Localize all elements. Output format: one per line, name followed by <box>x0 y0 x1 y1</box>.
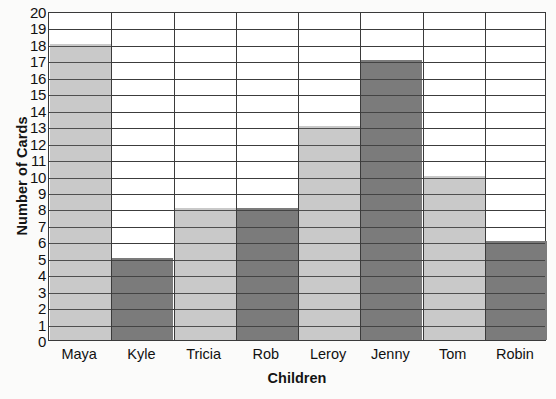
bar-robin <box>486 241 547 340</box>
x-tick-label: Rob <box>235 344 297 364</box>
bar-rob <box>237 208 298 340</box>
bar-chart: Number of Cards 201918171615141312111098… <box>0 0 556 399</box>
y-tick-label: 9 <box>22 185 46 200</box>
y-tick-label: 1 <box>22 317 46 332</box>
x-tick-label: Jenny <box>359 344 421 364</box>
x-tick-label: Tricia <box>173 344 235 364</box>
x-axis-tick-labels: MayaKyleTriciaRobLeroyJennyTomRobin <box>48 344 546 366</box>
bar-tricia <box>175 208 236 340</box>
y-axis-tick-labels: 20191817161514131211109876543210 <box>22 12 46 341</box>
y-tick-label: 13 <box>22 120 46 135</box>
bar-maya <box>50 44 111 340</box>
x-axis-title: Children <box>48 370 546 386</box>
x-tick-label: Robin <box>484 344 546 364</box>
y-tick-label: 15 <box>22 87 46 102</box>
bar-jenny <box>361 60 422 340</box>
y-tick-label: 5 <box>22 251 46 266</box>
x-tick-label: Maya <box>48 344 110 364</box>
cropped-title-remnant <box>0 0 556 7</box>
y-tick-label: 14 <box>22 103 46 118</box>
y-tick-label: 11 <box>22 153 46 168</box>
y-tick-label: 12 <box>22 136 46 151</box>
y-tick-label: 3 <box>22 284 46 299</box>
y-tick-label: 7 <box>22 218 46 233</box>
y-tick-label: 18 <box>22 37 46 52</box>
y-tick-label: 0 <box>22 334 46 349</box>
y-tick-label: 4 <box>22 268 46 283</box>
bars-layer <box>49 13 545 340</box>
bar-kyle <box>112 258 173 340</box>
y-tick-label: 10 <box>22 169 46 184</box>
y-tick-label: 19 <box>22 21 46 36</box>
plot-area <box>48 12 546 341</box>
x-tick-label: Tom <box>422 344 484 364</box>
y-tick-label: 2 <box>22 301 46 316</box>
y-tick-label: 6 <box>22 235 46 250</box>
y-tick-label: 20 <box>22 5 46 20</box>
y-tick-label: 8 <box>22 202 46 217</box>
bar-tom <box>424 176 485 341</box>
bar-leroy <box>299 126 360 340</box>
y-tick-label: 17 <box>22 54 46 69</box>
x-tick-label: Leroy <box>297 344 359 364</box>
y-tick-label: 16 <box>22 70 46 85</box>
x-tick-label: Kyle <box>110 344 172 364</box>
